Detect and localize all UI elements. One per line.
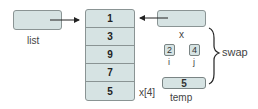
brace-icon [209,28,219,84]
connectors [0,0,258,109]
